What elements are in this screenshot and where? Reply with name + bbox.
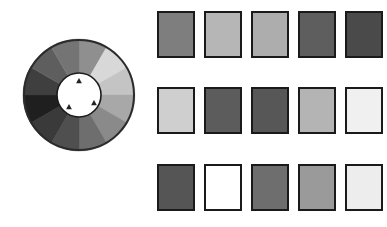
swatch-r3-c3[interactable]: [251, 164, 289, 211]
swatch-r2-c3[interactable]: [251, 87, 289, 134]
swatch-r2-c2[interactable]: [204, 87, 242, 134]
swatch-r1-c1[interactable]: [157, 11, 195, 58]
swatch-row: [157, 164, 379, 211]
swatch-row: [157, 11, 379, 58]
color-wheel-svg[interactable]: [21, 37, 137, 153]
swatch-r3-c4[interactable]: [298, 164, 336, 211]
swatch-r2-c4[interactable]: [298, 87, 336, 134]
swatch-r1-c3[interactable]: [251, 11, 289, 58]
swatch-r3-c2[interactable]: [204, 164, 242, 211]
swatch-grid: [157, 11, 379, 216]
swatch-r2-c5[interactable]: [345, 87, 383, 134]
swatch-r3-c5[interactable]: [345, 164, 383, 211]
swatch-r1-c4[interactable]: [298, 11, 336, 58]
swatch-r1-c2[interactable]: [204, 11, 242, 58]
swatch-row: [157, 87, 379, 134]
swatch-r2-c1[interactable]: [157, 87, 195, 134]
color-wheel-panel[interactable]: [21, 37, 137, 153]
swatch-r3-c1[interactable]: [157, 164, 195, 211]
figure-root: [0, 0, 387, 227]
swatch-r1-c5[interactable]: [345, 11, 383, 58]
